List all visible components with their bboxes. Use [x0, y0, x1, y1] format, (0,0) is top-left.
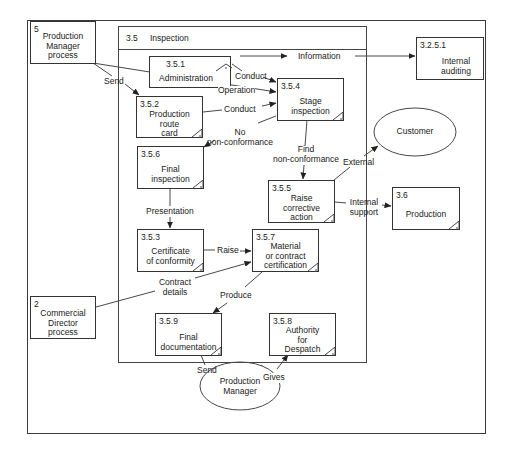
process-label: Production	[393, 210, 459, 220]
process-box-3-5-2[interactable]: 3.5.2 Production route card	[136, 96, 203, 138]
process-number: 2	[34, 299, 39, 309]
container-title: Inspection	[150, 33, 189, 43]
flow-label-send-2: Send	[197, 366, 217, 376]
process-number: 3.6	[396, 190, 408, 200]
flow-label-conduct-2: Conduct	[224, 105, 256, 115]
corner-mark-icon	[193, 263, 203, 271]
process-label: Production Manager process	[31, 32, 95, 61]
container-number: 3.5	[126, 33, 138, 43]
process-box-3-5-7[interactable]: 3.5.7 Material or contract certification	[252, 229, 319, 272]
process-number: 3.5.9	[159, 316, 178, 326]
flow-label-conduct-1: Conduct	[235, 72, 267, 82]
process-number: 3.5.1	[166, 59, 185, 69]
process-number: 3.2.5.1	[420, 40, 446, 50]
process-number: 3.5.6	[141, 149, 160, 159]
corner-mark-icon	[333, 112, 343, 120]
corner-mark-icon	[308, 263, 318, 271]
process-box-3-5-5[interactable]: 3.5.5 Raise corrective action	[268, 180, 335, 223]
process-box-3-5-1[interactable]: 3.5.1 Administration	[149, 56, 231, 88]
process-box-3-5-9[interactable]: 3.5.9 Final documentation	[155, 313, 222, 356]
process-box-2[interactable]: 2 Commercial Director process	[30, 296, 96, 339]
process-box-3-5-8[interactable]: 3.5.8 Authority for Despatch	[269, 313, 336, 356]
flow-label-no-nonconformance: No non-conformance	[205, 128, 275, 147]
process-number: 3.5.4	[281, 81, 300, 91]
process-box-3-5-4[interactable]: 3.5.4 Stage inspection	[277, 78, 344, 121]
corner-mark-icon	[449, 221, 459, 229]
process-number: 3.5.2	[140, 99, 159, 109]
process-box-3-5-3[interactable]: 3.5.3 Certificate of conformity	[137, 229, 204, 272]
external-customer-label[interactable]: Customer	[374, 127, 456, 137]
corner-mark-icon	[192, 129, 202, 137]
corner-mark-icon	[325, 347, 335, 355]
flow-label-external: External	[343, 158, 374, 168]
process-box-3-6[interactable]: 3.6 Production	[392, 187, 460, 230]
process-number: 3.5.3	[141, 232, 160, 242]
flow-label-internal-support: Internal support	[346, 198, 382, 217]
flow-label-presentation: Presentation	[146, 207, 194, 217]
process-label: Commercial Director process	[31, 309, 95, 338]
flow-label-gives: Gives	[263, 373, 285, 383]
roof-mark-icon	[216, 62, 232, 72]
flow-label-raise: Raise	[217, 246, 239, 256]
process-number: 3.5.5	[272, 183, 291, 193]
process-diagram: 3.5 Inspection 5 Production Manager proc…	[0, 0, 514, 452]
flow-label-send: Send	[104, 77, 124, 87]
process-label: Administration	[142, 74, 230, 84]
corner-mark-icon	[324, 214, 334, 222]
process-box-3-2-5-1[interactable]: 3.2.5.1 Internal auditing	[416, 37, 484, 80]
flow-label-contract-details: Contract details	[155, 278, 195, 297]
flow-label-produce: Produce	[220, 291, 252, 301]
process-label: Internal auditing	[429, 57, 483, 76]
process-box-5[interactable]: 5 Production Manager process	[30, 21, 96, 64]
flow-label-find-nonconformance: Find non-conformance	[271, 145, 341, 164]
corner-mark-icon	[211, 347, 221, 355]
flow-label-information: Information	[298, 52, 341, 62]
flow-label-operation: Operation	[218, 86, 255, 96]
container-header-divider	[119, 49, 366, 50]
corner-mark-icon	[193, 180, 203, 188]
process-box-3-5-6[interactable]: 3.5.6 Final inspection	[137, 146, 204, 189]
